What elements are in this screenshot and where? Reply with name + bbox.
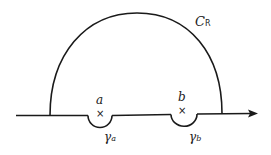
contour-label: CR [195, 15, 211, 28]
point-a-marker: × [96, 109, 104, 119]
point-b-marker: × [178, 106, 186, 116]
contour-name: C [195, 14, 205, 29]
contour-drawing [0, 0, 271, 155]
gamma-b-subscript: b [196, 134, 201, 143]
contour-diagram: CR a × b × γa γb [0, 0, 271, 155]
gamma-b-label: γb [189, 131, 201, 143]
contour-subscript: R [205, 19, 211, 28]
point-a-label: a [96, 94, 103, 106]
real-axis-right [197, 114, 252, 115]
gamma-a-subscript: a [111, 134, 116, 143]
gamma-a-label: γa [104, 131, 116, 143]
point-b-label: b [178, 91, 186, 103]
real-axis-middle [112, 115, 171, 116]
